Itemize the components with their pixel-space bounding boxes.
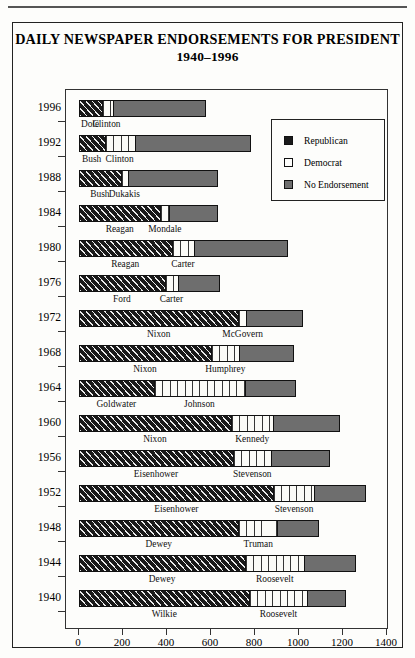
year-label-1972: 1972: [17, 311, 61, 324]
candidate-labels-1940: WilkieRoosevelt: [66, 609, 387, 622]
candidate-label-democrat-1980: Carter: [171, 259, 194, 269]
candidate-label-republican-1972: Nixon: [147, 329, 170, 339]
square-swatch-no-endorsement-icon: [284, 180, 293, 189]
bar-segment-no-endorsement-1992: [135, 136, 249, 151]
bar-segment-no-endorsement-1952: [314, 486, 365, 501]
candidate-label-democrat-1984: Mondale: [148, 224, 181, 234]
candidate-labels-1956: EisenhowerStevenson: [66, 469, 387, 482]
bar-segment-no-endorsement-1940: [307, 591, 346, 606]
bar-segment-republican-1976: [80, 276, 165, 291]
bar-segment-democrat-1940: [249, 591, 306, 606]
year-label-1992: 1992: [17, 136, 61, 149]
x-tick-1400: [386, 629, 387, 635]
y-axis-tick: [58, 576, 65, 577]
bar-1956: [79, 450, 330, 467]
y-axis-tick: [58, 366, 65, 367]
bar-1996: [79, 100, 206, 117]
bar-segment-no-endorsement-1960: [273, 416, 339, 431]
candidate-label-democrat-1952: Stevenson: [275, 504, 314, 514]
y-axis-tick: [58, 261, 65, 262]
x-tick-label-1400: 1400: [375, 636, 397, 648]
candidate-label-republican-1976: Ford: [113, 294, 131, 304]
bar-1972: [79, 310, 303, 327]
year-label-1964: 1964: [17, 381, 61, 394]
y-axis-tick: [58, 471, 65, 472]
bar-segment-democrat-1996: [102, 101, 113, 116]
bar-segment-republican-1960: [80, 416, 231, 431]
bar-segment-no-endorsement-1944: [304, 556, 355, 571]
candidate-label-republican-1988: Bush: [90, 189, 109, 199]
x-tick-400: [166, 629, 167, 635]
x-tick-label-0: 0: [75, 636, 81, 648]
candidate-label-democrat-1996: Clinton: [92, 119, 120, 129]
bar-1948: [79, 520, 319, 537]
legend-item-no-endorsement: No Endorsement: [284, 173, 384, 195]
bar-segment-democrat-1972: [238, 311, 246, 326]
figure-frame: DAILY NEWSPAPER ENDORSEMENTS FOR PRESIDE…: [12, 22, 403, 648]
candidate-label-republican-1952: Eisenhower: [154, 504, 198, 514]
bar-segment-no-endorsement-1984: [169, 206, 217, 221]
candidate-label-democrat-1940: Roosevelt: [260, 609, 298, 619]
legend-box: Republican Democrat No Endorsement: [271, 119, 385, 201]
bar-segment-republican-1956: [80, 451, 233, 466]
y-axis-tick: [58, 121, 65, 122]
x-tick-200: [122, 629, 123, 635]
year-label-1980: 1980: [17, 241, 61, 254]
bar-segment-republican-1948: [80, 521, 238, 536]
candidate-labels-1948: DeweyTruman: [66, 539, 387, 552]
bar-segment-democrat-1964: [154, 381, 244, 396]
bar-segment-democrat-1948: [238, 521, 277, 536]
candidate-label-democrat-1988: Dukakis: [109, 189, 140, 199]
chart-title: DAILY NEWSPAPER ENDORSEMENTS FOR PRESIDE…: [13, 31, 402, 65]
chart-title-line2: 1940–1996: [13, 48, 402, 65]
x-tick-1200: [342, 629, 343, 635]
page-canvas: DAILY NEWSPAPER ENDORSEMENTS FOR PRESIDE…: [0, 0, 415, 658]
chart-title-line1: DAILY NEWSPAPER ENDORSEMENTS FOR PRESIDE…: [13, 31, 402, 48]
bar-1984: [79, 205, 218, 222]
square-swatch-republican-icon: [284, 136, 293, 145]
y-axis-tick: [58, 331, 65, 332]
year-label-1960: 1960: [17, 416, 61, 429]
candidate-label-republican-1968: Nixon: [133, 364, 156, 374]
year-label-1968: 1968: [17, 346, 61, 359]
candidate-label-democrat-1944: Roosevelt: [256, 574, 294, 584]
candidate-label-democrat-1972: McGovern: [222, 329, 263, 339]
bar-segment-democrat-1968: [211, 346, 239, 361]
candidate-label-republican-1984: Reagan: [106, 224, 134, 234]
candidate-labels-1944: DeweyRoosevelt: [66, 574, 387, 587]
candidate-label-republican-1964: Goldwater: [97, 399, 137, 409]
bar-1980: [79, 240, 288, 257]
year-label-1952: 1952: [17, 486, 61, 499]
candidate-label-democrat-1956: Stevenson: [233, 469, 272, 479]
page-top-rule: [8, 6, 407, 8]
candidate-label-republican-1992: Bush: [82, 154, 101, 164]
bar-1964: [79, 380, 296, 397]
legend-label-democrat: Democrat: [304, 157, 342, 168]
bar-segment-democrat-1988: [121, 171, 128, 186]
y-axis-tick: [58, 156, 65, 157]
bar-segment-republican-1988: [80, 171, 121, 186]
bar-segment-republican-1984: [80, 206, 160, 221]
y-axis-tick: [58, 401, 65, 402]
square-swatch-democrat-icon: [284, 158, 293, 167]
bar-segment-no-endorsement-1996: [113, 101, 206, 116]
bar-segment-no-endorsement-1964: [245, 381, 295, 396]
bar-1992: [79, 135, 251, 152]
y-axis-tick: [58, 611, 65, 612]
year-label-1984: 1984: [17, 206, 61, 219]
bar-segment-republican-1992: [80, 136, 105, 151]
x-tick-label-1200: 1200: [331, 636, 353, 648]
bar-segment-democrat-1944: [245, 556, 304, 571]
x-tick-label-400: 400: [158, 636, 175, 648]
x-tick-0: [78, 629, 79, 635]
bar-segment-no-endorsement-1972: [246, 311, 302, 326]
bar-segment-no-endorsement-1988: [128, 171, 217, 186]
bar-segment-democrat-1960: [231, 416, 274, 431]
year-label-1976: 1976: [17, 276, 61, 289]
bar-segment-no-endorsement-1980: [194, 241, 287, 256]
candidate-label-democrat-1968: Humphrey: [205, 364, 245, 374]
x-tick-800: [254, 629, 255, 635]
y-axis-tick: [58, 541, 65, 542]
candidate-label-democrat-1960: Kennedy: [235, 434, 269, 444]
candidate-labels-1976: FordCarter: [66, 294, 387, 307]
